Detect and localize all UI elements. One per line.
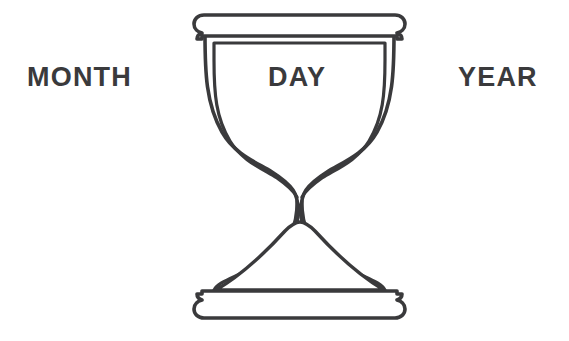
bottom-cap [194, 291, 405, 318]
label-month: MONTH [27, 64, 132, 91]
label-year: YEAR [458, 64, 538, 91]
top-cap [194, 15, 405, 39]
hourglass-date-graphic: MONTH DAY YEAR [0, 0, 569, 341]
label-day: DAY [268, 64, 326, 91]
sand-mound [216, 222, 384, 290]
hourglass-icon [0, 0, 569, 341]
